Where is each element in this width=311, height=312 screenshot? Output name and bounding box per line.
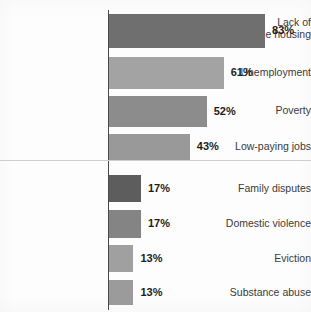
- bar-value-label: 61%: [231, 66, 253, 78]
- category-label: Family disputes: [207, 182, 311, 194]
- bar-value-label: 17%: [148, 217, 170, 229]
- bar: [109, 175, 141, 202]
- group-divider-line: [0, 160, 311, 161]
- bar: [109, 245, 133, 272]
- category-label: Substance abuse: [207, 286, 311, 298]
- category-label: Low-paying jobs: [207, 140, 311, 152]
- category-label: Domestic violence: [207, 217, 311, 229]
- bar-value-label: 17%: [148, 182, 170, 194]
- bar: [109, 14, 265, 48]
- bar-value-label: 83%: [272, 24, 294, 36]
- bar-value-label: 43%: [197, 140, 219, 152]
- bar-value-label: 13%: [140, 252, 162, 264]
- bar-chart: Lack of affordable housing83%Unemploymen…: [0, 0, 311, 312]
- plot-area: Lack of affordable housing83%Unemploymen…: [0, 0, 311, 312]
- bar: [109, 134, 190, 160]
- bar: [109, 280, 133, 305]
- bar: [109, 57, 224, 89]
- bar-value-label: 52%: [214, 105, 236, 117]
- bar: [109, 96, 207, 127]
- bar: [109, 210, 141, 238]
- category-label: Eviction: [207, 252, 311, 264]
- bar-value-label: 13%: [140, 286, 162, 298]
